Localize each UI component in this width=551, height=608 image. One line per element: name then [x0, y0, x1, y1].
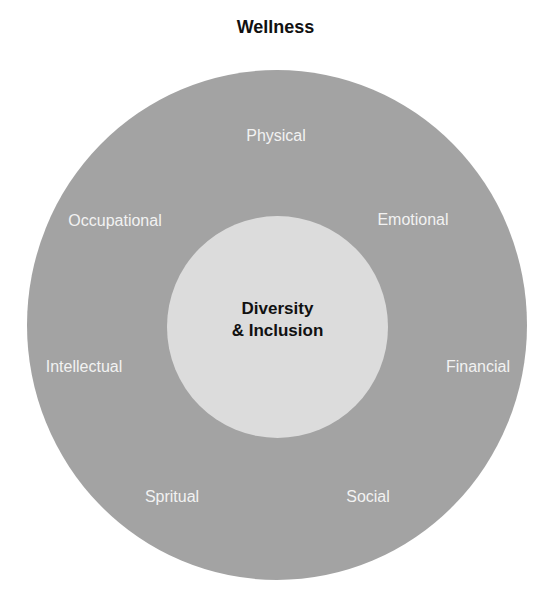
center-label-line1: Diversity [167, 298, 388, 320]
center-label: Diversity & Inclusion [167, 298, 388, 342]
center-label-line2: & Inclusion [167, 320, 388, 342]
dimension-intellectual: Intellectual [46, 358, 123, 376]
dimension-social: Social [346, 488, 390, 506]
dimension-spiritual: Spritual [145, 488, 199, 506]
dimension-occupational: Occupational [68, 212, 161, 230]
dimension-physical: Physical [246, 127, 306, 145]
diagram-title: Wellness [0, 17, 551, 38]
dimension-emotional: Emotional [377, 211, 448, 229]
dimension-financial: Financial [446, 358, 510, 376]
